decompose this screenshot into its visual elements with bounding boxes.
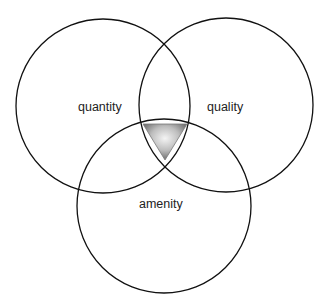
- venn-diagram: quantity quality amenity: [0, 0, 327, 305]
- center-intersection-triangle: [143, 124, 187, 160]
- label-quality: quality: [207, 100, 244, 114]
- label-amenity: amenity: [139, 197, 184, 211]
- label-quantity: quantity: [78, 100, 123, 114]
